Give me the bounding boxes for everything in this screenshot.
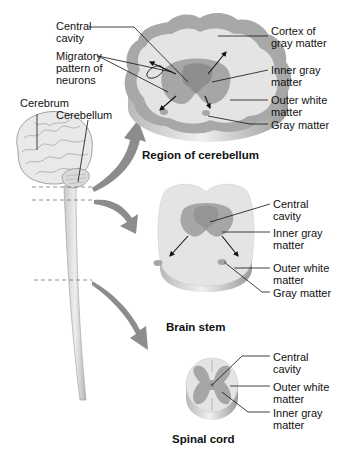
label-cerebellum: Cerebellum [56, 109, 112, 121]
caption-spinal-cord: Spinal cord [172, 433, 235, 445]
label-central-cavity-spinal-cord: Central cavity [273, 351, 308, 375]
label-inner-gray-brain-stem: Inner gray matter [273, 227, 323, 251]
label-outer-white-spinal-cord: Outer white matter [273, 381, 329, 405]
caption-region-of-cerebellum: Region of cerebellum [142, 149, 259, 161]
label-migratory-pattern: Migratory pattern of neurons [56, 50, 102, 86]
cerebellum-section [125, 13, 291, 142]
label-inner-gray-spinal-cord: Inner gray matter [273, 407, 323, 431]
label-inner-gray-cerebellum: Inner gray matter [271, 64, 321, 88]
level-markers [32, 187, 92, 280]
brain-illustration [17, 112, 93, 401]
label-outer-white-cerebellum: Outer white matter [271, 94, 327, 118]
label-cerebrum: Cerebrum [20, 97, 69, 109]
label-central-cavity-brain-stem: Central cavity [273, 198, 308, 222]
section-arrows [92, 120, 148, 350]
label-gray-matter-cerebellum: Gray matter [271, 119, 329, 131]
label-outer-white-brain-stem: Outer white matter [273, 262, 329, 286]
label-central-cavity-cerebellum: Central cavity [56, 20, 91, 44]
brain-stem-section [154, 184, 255, 292]
label-gray-matter-brain-stem: Gray matter [273, 287, 331, 299]
label-cortex-gray-matter: Cortex of gray matter [271, 25, 327, 49]
caption-brain-stem: Brain stem [166, 321, 225, 333]
